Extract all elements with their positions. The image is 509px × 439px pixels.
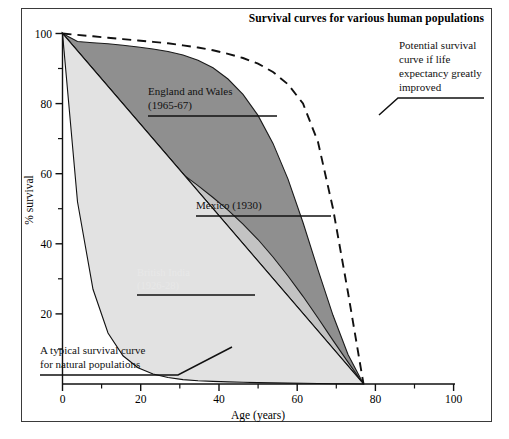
y-tick-label: 100 bbox=[35, 28, 53, 40]
y-tick-label: 60 bbox=[41, 168, 53, 180]
annotation-natural-line1: A typical survival curve bbox=[40, 344, 146, 356]
annotation-potential-line4: improved bbox=[399, 81, 442, 93]
figure-title: Survival curves for various human popula… bbox=[249, 12, 485, 25]
survival-curves-figure: 100 80 60 40 20 0 20 40 60 80 100 Age (y… bbox=[0, 0, 509, 439]
annotation-mexico-line1: Mexico (1930) bbox=[196, 199, 262, 212]
annotation-india-line1: British India bbox=[137, 267, 190, 278]
annotation-potential-line2: curve if life bbox=[399, 53, 450, 65]
y-tick-label: 40 bbox=[41, 238, 53, 250]
leader-line-potential bbox=[379, 98, 484, 115]
x-tick-label: 60 bbox=[291, 393, 303, 405]
x-tick-label: 40 bbox=[213, 393, 225, 405]
y-axis-tick-labels: 100 80 60 40 20 bbox=[35, 28, 53, 320]
x-tick-label: 0 bbox=[60, 393, 66, 405]
annotation-england-line1: England and Wales bbox=[148, 85, 232, 97]
x-tick-label: 80 bbox=[370, 393, 382, 405]
x-tick-label: 100 bbox=[445, 393, 463, 405]
annotation-potential-curve: Potential survival curve if life expecta… bbox=[379, 39, 484, 115]
annotation-india-line2: (1926-28) bbox=[137, 280, 179, 292]
y-axis-major-ticks bbox=[56, 34, 63, 314]
y-tick-label: 80 bbox=[41, 98, 53, 110]
annotation-england-line2: (1965-67) bbox=[148, 99, 192, 112]
chart-canvas: 100 80 60 40 20 0 20 40 60 80 100 Age (y… bbox=[0, 0, 509, 439]
x-axis-tick-labels: 0 20 40 60 80 100 bbox=[60, 393, 463, 405]
annotation-natural-line2: for natural populations bbox=[40, 358, 140, 370]
annotation-potential-line1: Potential survival bbox=[399, 39, 476, 51]
x-tick-label: 20 bbox=[135, 393, 147, 405]
y-axis-title: % survival bbox=[23, 175, 35, 225]
annotation-potential-line3: expectancy greatly bbox=[399, 67, 482, 79]
y-tick-label: 20 bbox=[41, 308, 53, 320]
x-axis-title: Age (years) bbox=[231, 409, 285, 422]
